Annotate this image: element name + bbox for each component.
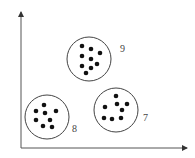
data-point [80,64,85,69]
data-point [110,117,115,122]
data-point [80,44,85,49]
data-point [42,103,47,108]
data-point [89,47,94,52]
data-point [125,102,130,107]
data-point [80,54,85,59]
data-point [119,116,124,121]
data-point [48,118,53,123]
data-point [115,102,120,107]
data-point [102,116,107,121]
cluster-8: 8 [25,95,77,139]
data-point [103,105,108,110]
cluster-boundary-circle [25,95,69,139]
cluster-label: 7 [143,112,148,123]
data-point [84,71,89,76]
clusters-group: 987 [25,37,148,139]
data-point [43,111,48,116]
cluster-7: 7 [94,88,148,132]
data-point [41,124,46,129]
data-point [34,118,39,123]
data-point [89,66,94,71]
data-point [54,109,59,114]
data-point [50,125,55,130]
cluster-label: 9 [120,43,125,54]
data-point [114,94,119,99]
data-point [89,57,94,62]
cluster-label: 8 [72,123,77,134]
data-point [98,51,103,56]
cluster-9: 9 [67,37,125,81]
data-point [120,108,125,113]
cluster-diagram: 987 [0,0,195,158]
data-point [34,109,39,114]
data-point [95,62,100,67]
